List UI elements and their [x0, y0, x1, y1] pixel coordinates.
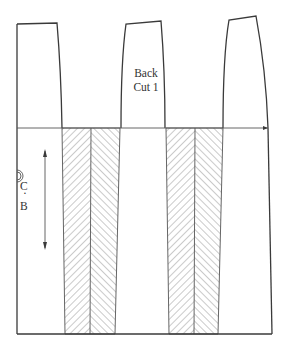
- grainline: [43, 149, 47, 250]
- right-panel-top: [223, 16, 268, 128]
- grainline-arrow-down-icon: [43, 242, 47, 250]
- centre-back-label-b: B: [20, 200, 28, 212]
- grainline-arrow-up-icon: [43, 149, 47, 157]
- arrow-right-icon: [263, 126, 268, 130]
- hatched-insert-1: [55, 125, 125, 340]
- pattern-outline: [17, 16, 272, 334]
- left-panel-top: [17, 23, 62, 128]
- centre-back-label-dot: ·: [23, 187, 27, 199]
- piece-name-label: Back: [134, 67, 158, 79]
- style-line: [17, 126, 268, 130]
- cut-count-label: Cut 1: [133, 81, 158, 93]
- hatched-insert-2: [160, 125, 230, 340]
- pattern-diagram: Back Cut 1 C · B: [0, 0, 285, 347]
- side-seam-lower: [268, 128, 272, 334]
